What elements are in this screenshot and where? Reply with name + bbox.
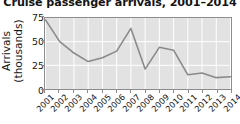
chart-figure: Cruise passenger arrivals, 2001–2014 Arr…	[0, 0, 240, 124]
x-tickmark-2003	[73, 90, 74, 93]
x-tickmark-2001	[44, 90, 45, 93]
y-tick-label-25: 25	[4, 60, 44, 71]
x-tickmark-2014	[231, 90, 232, 93]
x-tickmark-2010	[173, 90, 174, 93]
x-tickmark-2005	[102, 90, 103, 93]
x-tickmark-2002	[58, 90, 59, 93]
x-tickmark-2011	[188, 90, 189, 93]
plot-svg	[45, 18, 231, 89]
data-series-line	[45, 19, 230, 77]
x-tickmark-2013	[217, 90, 218, 93]
x-tickmark-2004	[87, 90, 88, 93]
x-tickmark-2007	[130, 90, 131, 93]
x-tickmark-2009	[159, 90, 160, 93]
chart-title: Cruise passenger arrivals, 2001–2014	[0, 0, 240, 9]
plot-area	[44, 17, 232, 90]
y-tick-label-50: 50	[4, 35, 44, 46]
y-tick-label-75: 75	[4, 11, 44, 22]
gridlines	[45, 18, 231, 89]
x-tickmark-2008	[145, 90, 146, 93]
y-axis-label-line1: Arrivals	[0, 19, 12, 82]
x-tickmark-2012	[202, 90, 203, 93]
y-axis-label-line2: (thousands)	[12, 19, 24, 82]
y-tick-label-0: 0	[4, 84, 44, 95]
x-tickmark-2006	[116, 90, 117, 93]
